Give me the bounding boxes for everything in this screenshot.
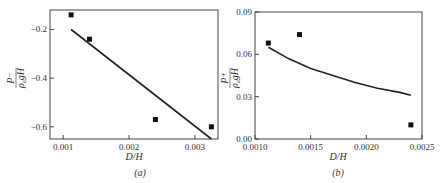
y-axis-label: P⁻ ρagH (5, 67, 27, 89)
x-tick-label: 0.0010 (243, 142, 268, 152)
plot-frame (50, 10, 218, 139)
y-axis-ticks: −0.2−0.4−0.6 (31, 24, 54, 131)
panel-label: (b) (332, 167, 344, 179)
data-point-marker (87, 37, 92, 42)
x-tick-label: 0.003 (185, 142, 206, 152)
x-tick-label: 0.0025 (410, 142, 435, 152)
data-point-marker (297, 32, 302, 37)
y-tick-label: 0.09 (236, 7, 252, 17)
plot-frame (255, 12, 422, 139)
data-point-marker (266, 41, 271, 46)
panel-label: (a) (134, 167, 146, 179)
chart-panel-a: −0.2−0.4−0.6 0.0010.0020.003 D/H (a) P⁻ … (5, 10, 218, 179)
y-axis-label: P⁺ ρagH (219, 67, 241, 89)
data-point-marker (209, 124, 214, 129)
data-point-marker (69, 12, 74, 17)
y-tick-label: 0.03 (236, 92, 252, 102)
x-axis-label: D/H (124, 151, 143, 162)
y-tick-label: −0.2 (31, 24, 47, 34)
x-axis-ticks: 0.00100.00150.00200.0025 (243, 135, 435, 152)
svg-text:ρagH: ρagH (15, 67, 27, 89)
x-axis-ticks: 0.0010.0020.003 (53, 135, 206, 152)
data-point-marker (408, 122, 413, 127)
x-tick-label: 0.0015 (298, 142, 323, 152)
data-series (69, 12, 214, 139)
y-tick-label: −0.6 (31, 122, 48, 132)
x-tick-label: 0.0020 (354, 142, 379, 152)
x-tick-label: 0.001 (53, 142, 73, 152)
svg-text:ρagH: ρagH (229, 67, 241, 89)
fit-line (71, 30, 211, 140)
figure: −0.2−0.4−0.6 0.0010.0020.003 D/H (a) P⁻ … (0, 0, 440, 183)
y-tick-label: 0.06 (236, 49, 252, 59)
x-axis-label: D/H (328, 151, 347, 162)
y-tick-label: −0.4 (31, 73, 48, 83)
fit-line (268, 47, 411, 95)
data-series (266, 32, 414, 127)
data-point-marker (153, 117, 158, 122)
chart-panel-b: 0.000.030.060.09 0.00100.00150.00200.002… (219, 7, 435, 179)
